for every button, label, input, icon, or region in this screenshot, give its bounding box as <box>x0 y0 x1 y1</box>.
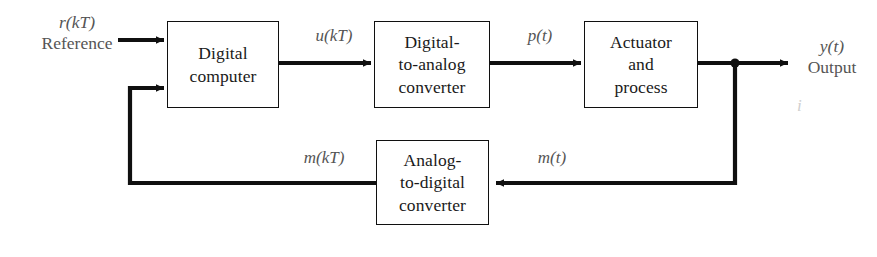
block-actuator-and-process[interactable]: Actuator and process <box>584 21 698 108</box>
signal-y-t-caption: Output <box>808 57 857 77</box>
block-diagram: Digital computer Digital- to-analog conv… <box>0 0 877 257</box>
signal-m-kt-variable: m(kT) <box>304 148 345 167</box>
ghost-mark-i: i <box>797 96 802 116</box>
signal-label-m-t: m(t) <box>512 148 592 168</box>
signal-label-p-t: p(t) <box>498 26 582 46</box>
block-actuator-line3: process <box>614 76 667 98</box>
block-adc-line1: Analog- <box>403 149 461 171</box>
signal-p-t-variable: p(t) <box>528 26 553 45</box>
signal-u-kt-variable: u(kT) <box>316 26 353 45</box>
block-digital-to-analog-converter[interactable]: Digital- to-analog converter <box>374 21 490 108</box>
output-takeoff-junction <box>730 58 739 67</box>
block-dac-line3: converter <box>399 76 466 98</box>
signal-reference-variable: r(kT) <box>59 12 95 32</box>
block-dac-line1: Digital- <box>404 31 459 53</box>
signal-label-u-kt: u(kT) <box>292 26 376 46</box>
block-actuator-line2: and <box>628 53 654 75</box>
block-digital-computer-line2: computer <box>190 65 257 87</box>
signal-y-t-variable: y(t) <box>820 36 844 56</box>
block-digital-computer-line1: Digital <box>198 42 247 64</box>
block-adc-line2: to-digital <box>400 171 465 193</box>
block-analog-to-digital-converter[interactable]: Analog- to-digital converter <box>376 140 489 225</box>
block-adc-line3: converter <box>399 194 466 216</box>
signal-label-reference: r(kT) Reference <box>18 12 136 54</box>
signal-m-t-variable: m(t) <box>538 148 566 167</box>
signal-label-m-kt: m(kT) <box>278 148 370 168</box>
signal-label-y-t-output: y(t) Output <box>792 36 872 78</box>
block-dac-line2: to-analog <box>399 53 466 75</box>
block-digital-computer[interactable]: Digital computer <box>167 21 279 108</box>
block-actuator-line1: Actuator <box>610 31 672 53</box>
signal-reference-caption: Reference <box>42 33 113 53</box>
